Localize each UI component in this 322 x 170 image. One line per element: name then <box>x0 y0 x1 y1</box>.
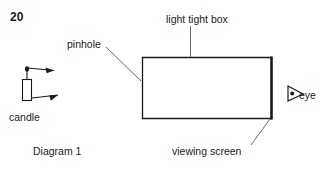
candle-body <box>23 80 32 101</box>
label-pinhole: pinhole <box>67 39 101 50</box>
question-number: 20 <box>10 11 24 23</box>
pinhole-leader-line <box>106 47 141 81</box>
figure-page: 20 pinhole light tight box viewing scree… <box>0 0 322 170</box>
viewing-screen-leader-line <box>251 119 270 145</box>
light-ray-upper-arrowhead <box>46 68 55 74</box>
label-eye: eye <box>299 90 316 101</box>
candle-flame <box>25 66 29 72</box>
label-light-tight-box: light tight box <box>166 14 228 25</box>
label-candle: candle <box>9 112 40 123</box>
eye-pupil-icon <box>290 92 294 96</box>
light-ray-lower-arrowhead <box>49 95 58 101</box>
label-viewing-screen: viewing screen <box>172 146 241 157</box>
figure-caption: Diagram 1 <box>33 146 81 157</box>
